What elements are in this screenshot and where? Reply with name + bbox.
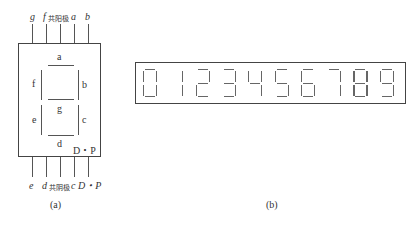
segment-a — [329, 69, 339, 70]
digit-1 — [168, 69, 184, 97]
segment-f — [301, 71, 302, 82]
pin-label-common-cathode: 共阴极 — [49, 183, 70, 193]
pin-label-d: d — [42, 181, 47, 191]
segment-c — [78, 105, 79, 135]
pin-bottom-3 — [60, 157, 61, 177]
segment-e — [143, 85, 144, 96]
pin-label-dp: D・P — [78, 181, 101, 191]
segment-b — [78, 70, 79, 100]
pin-top-2 — [46, 24, 47, 43]
segment-g — [355, 83, 365, 84]
segment-c — [182, 85, 183, 96]
segment-f — [248, 71, 249, 82]
segment-a — [277, 69, 287, 70]
segment-b — [209, 71, 210, 82]
segment-f — [275, 71, 276, 82]
segment-c — [366, 85, 367, 96]
segment-d — [48, 135, 74, 136]
segment-g — [303, 83, 313, 84]
segment-d — [277, 96, 287, 97]
digit-5 — [274, 69, 290, 97]
segment-label-b: b — [82, 80, 87, 90]
segment-e — [301, 85, 302, 96]
segment-b — [182, 71, 183, 82]
pin-bottom-5 — [88, 157, 89, 177]
segment-f — [380, 71, 381, 82]
segment-f — [353, 71, 354, 82]
pin-label-b: b — [85, 12, 90, 22]
segment-g — [198, 83, 208, 84]
segment-a — [382, 69, 392, 70]
segment-b — [235, 71, 236, 82]
segment-c — [288, 85, 289, 96]
segment-b — [340, 71, 341, 82]
pin-bottom-1 — [32, 157, 33, 177]
segment-g — [250, 83, 260, 84]
segment-g — [48, 99, 74, 100]
segment-a — [48, 65, 74, 66]
pin-top-3 — [60, 24, 61, 43]
pin-label-c: c — [71, 181, 75, 191]
pin-label-e: e — [29, 181, 33, 191]
pin-top-5 — [88, 24, 89, 43]
segment-d — [355, 96, 365, 97]
pin-top-4 — [74, 24, 75, 43]
segment-f — [143, 71, 144, 82]
segment-d — [145, 96, 155, 97]
segment-c — [340, 85, 341, 96]
pin-label-a: a — [71, 12, 76, 22]
segment-label-dp: D・P — [73, 146, 96, 156]
caption-b: (b) — [266, 199, 278, 210]
segment-label-a: a — [57, 52, 61, 62]
digit-6 — [300, 69, 316, 97]
segment-f — [41, 70, 42, 100]
pin-bottom-4 — [74, 157, 75, 177]
digit-0 — [142, 69, 158, 97]
pin-top-1 — [32, 24, 33, 43]
segment-d — [382, 96, 392, 97]
segment-label-g: g — [57, 104, 62, 114]
segment-a — [224, 69, 234, 70]
digit-3 — [221, 69, 237, 97]
pin-label-g: g — [30, 12, 35, 22]
segment-b — [261, 71, 262, 82]
segment-c — [314, 85, 315, 96]
segment-b — [393, 71, 394, 82]
digit-7 — [326, 69, 342, 97]
segment-label-e: e — [32, 115, 36, 125]
caption-a: (a) — [50, 199, 61, 210]
segment-g — [224, 83, 234, 84]
segment-d — [224, 96, 234, 97]
segment-e — [41, 105, 42, 135]
segment-a — [145, 69, 155, 70]
segment-label-f: f — [32, 79, 35, 89]
digit-4 — [247, 69, 263, 97]
segment-d — [303, 96, 313, 97]
digit-2 — [195, 69, 211, 97]
segment-a — [355, 69, 365, 70]
segment-a — [303, 69, 313, 70]
segment-c — [156, 85, 157, 96]
segment-d — [198, 96, 208, 97]
pin-bottom-2 — [46, 157, 47, 177]
segment-g — [382, 83, 392, 84]
segment-b — [366, 71, 367, 82]
segment-a — [198, 69, 208, 70]
segment-b — [156, 71, 157, 82]
segment-c — [261, 85, 262, 96]
pin-label-f: f — [43, 12, 46, 22]
segment-label-d: d — [57, 139, 62, 149]
segment-c — [393, 85, 394, 96]
segment-label-c: c — [82, 115, 86, 125]
segment-e — [196, 85, 197, 96]
pin-label-common-anode: 共阳极 — [48, 14, 69, 24]
digit-9 — [379, 69, 395, 97]
segment-e — [353, 85, 354, 96]
segment-g — [277, 83, 287, 84]
digit-8 — [352, 69, 368, 97]
segment-c — [235, 85, 236, 96]
